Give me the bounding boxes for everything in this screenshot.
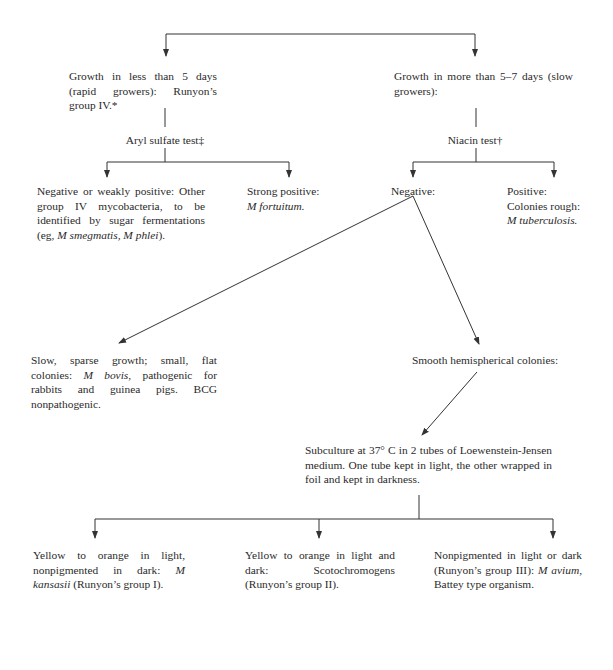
node-slow-growers: Growth in more than 5–7 days (slow growe… [394,69,573,98]
niacin-negative-text: Negative: [391,185,435,197]
node-niacin-negative: Negative: [391,184,471,199]
node-aryl-sulfate-test: Aryl sulfate test‡ [95,133,235,148]
node-runyon-group-2: Yellow to orange in light and dark: Scot… [245,548,395,592]
aryl-negative-species: M smegmatis, M phlei [57,229,158,241]
group1-text: Yellow to orange in light, nonpigmented … [33,549,185,576]
node-niacin-positive: Positive: Colonies rough: M tuberculosis… [507,184,611,228]
node-aryl-strong-positive: Strong positive: M fortuitum. [247,184,357,213]
aryl-positive-species: M fortuitum. [247,200,305,212]
node-runyon-group-1: Yellow to orange in light, nonpigmented … [33,548,185,592]
group3-species: M avium [538,564,579,576]
node-subculture: Subculture at 37° C in 2 tubes of Loewen… [305,443,552,487]
node-m-bovis: Slow, sparse growth; small, flat colonie… [31,353,217,411]
node-runyon-group-3: Nonpigmented in light or dark (Runyon’s … [434,548,582,592]
top-split-connector [166,34,475,56]
niacin-split-connector [413,148,554,177]
subculture-split-connector [95,495,553,538]
node-smooth-colonies: Smooth hemispherical colonies: [400,353,570,368]
subculture-text: Subculture at 37° C in 2 tubes of Loewen… [305,444,552,485]
niacin-test-label: Niacin test† [448,134,503,146]
niacin-positive-colonies: Colonies rough: [507,199,611,214]
group2-text: Yellow to orange in light and dark: Scot… [245,549,395,590]
bovis-species: M bovis [83,369,128,381]
aryl-sulfate-test-label: Aryl sulfate test‡ [126,134,204,146]
group1-text-end: (Runyon’s group I). [70,578,163,590]
node-niacin-test: Niacin test† [420,133,530,148]
slow-growers-text: Growth in more than 5–7 days (slow growe… [394,70,573,97]
node-rapid-growers: Growth in less than 5 days (rapid grower… [69,69,217,113]
rapid-growers-text: Growth in less than 5 days (rapid grower… [69,70,217,111]
aryl-positive-text: Strong positive: [247,184,357,199]
node-aryl-negative: Negative or weakly positive: Other group… [37,184,205,242]
niacin-positive-species: M tuberculosis. [507,214,577,226]
niacin-positive-text: Positive: [507,184,611,199]
smooth-to-subculture-arrow [422,372,477,435]
aryl-negative-text-end: ). [159,229,166,241]
aryl-split-connector [107,148,289,177]
smooth-colonies-text: Smooth hemispherical colonies: [412,354,558,366]
